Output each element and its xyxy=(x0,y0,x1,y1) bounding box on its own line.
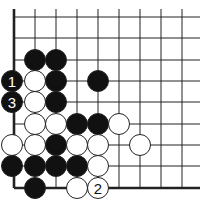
black-stone xyxy=(46,156,67,177)
stone-circle xyxy=(46,92,67,113)
white-stone xyxy=(25,135,46,156)
white-stone xyxy=(88,135,109,156)
move-number-label: 2 xyxy=(94,180,102,197)
black-stone xyxy=(2,156,23,177)
stone-circle xyxy=(25,114,46,135)
move-number-label: 1 xyxy=(8,73,16,90)
white-stone xyxy=(109,114,130,135)
stone-circle xyxy=(2,156,23,177)
stone-circle xyxy=(46,114,67,135)
stone-circle xyxy=(25,92,46,113)
stone-circle xyxy=(88,71,109,92)
black-stone xyxy=(46,92,67,113)
black-stone xyxy=(88,114,109,135)
stone-circle xyxy=(25,156,46,177)
white-stone xyxy=(46,114,67,135)
stone-circle xyxy=(67,178,88,199)
stone-circle xyxy=(67,135,88,156)
black-stone xyxy=(67,114,88,135)
stone-circle xyxy=(67,156,88,177)
stone-circle xyxy=(130,135,151,156)
white-stone xyxy=(25,114,46,135)
stone-circle xyxy=(46,71,67,92)
move-number-label: 3 xyxy=(8,94,16,111)
white-stone xyxy=(130,135,151,156)
white-stone-move-2: 2 xyxy=(88,178,109,199)
stone-circle xyxy=(25,135,46,156)
stone-circle xyxy=(25,71,46,92)
stone-circle xyxy=(109,114,130,135)
stone-circle xyxy=(88,156,109,177)
stone-circle xyxy=(88,135,109,156)
white-stone xyxy=(2,135,23,156)
stone-circle xyxy=(67,114,88,135)
white-stone xyxy=(67,178,88,199)
white-stone xyxy=(67,135,88,156)
stone-circle xyxy=(2,135,23,156)
black-stone xyxy=(46,135,67,156)
black-stone xyxy=(25,178,46,199)
white-stone xyxy=(25,92,46,113)
black-stone xyxy=(25,156,46,177)
black-stone xyxy=(46,71,67,92)
go-board-diagram: 132 xyxy=(0,0,200,203)
black-stone xyxy=(25,50,46,71)
white-stone xyxy=(25,71,46,92)
stone-circle xyxy=(46,50,67,71)
black-stone-move-1: 1 xyxy=(2,71,23,92)
stone-circle xyxy=(25,50,46,71)
black-stone-move-3: 3 xyxy=(2,92,23,113)
stone-circle xyxy=(25,178,46,199)
black-stone xyxy=(46,50,67,71)
stone-circle xyxy=(46,156,67,177)
black-stone xyxy=(67,156,88,177)
white-stone xyxy=(88,156,109,177)
stone-circle xyxy=(46,135,67,156)
stone-circle xyxy=(88,114,109,135)
black-stone xyxy=(88,71,109,92)
